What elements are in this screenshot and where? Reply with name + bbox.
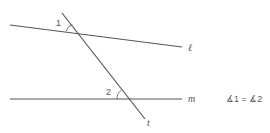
line-l: [10, 25, 182, 47]
line-t-label: t: [147, 117, 150, 128]
diagram-canvas: 1 2 ℓ m t ∡1 = ∡2: [0, 0, 270, 133]
angle-2-arc: [117, 90, 122, 99]
line-l-label: ℓ: [188, 42, 192, 53]
angle-equality-statement: ∡1 = ∡2: [226, 94, 262, 104]
angle-2-label: 2: [106, 87, 111, 97]
line-t: [62, 13, 145, 119]
angle-1-label: 1: [56, 18, 61, 28]
line-m-label: m: [188, 93, 195, 104]
